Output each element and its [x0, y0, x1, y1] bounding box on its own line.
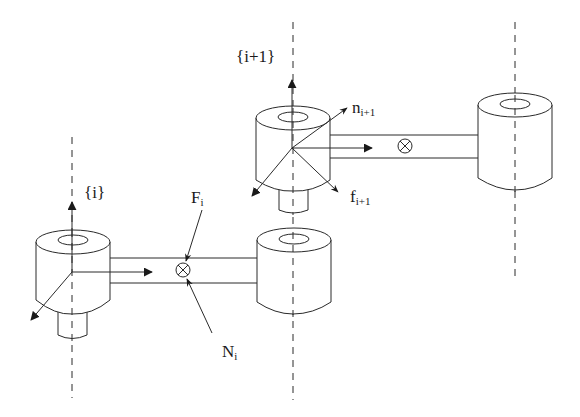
force-F-i-label: Fi: [191, 189, 204, 208]
frame-i-label: {i}: [84, 184, 105, 201]
frame-i1-label: {i+1}: [236, 48, 275, 65]
joint-i-cylinder: [36, 230, 110, 339]
force-F-i-arrow: [186, 210, 202, 261]
robot-link-diagram: [0, 0, 580, 417]
force-f-i1-label: fi+1: [350, 188, 370, 207]
center-of-mass-i-icon: [176, 263, 190, 277]
moment-N-i-arrow: [187, 279, 212, 333]
moment-n-i1-label: ni+1: [352, 99, 375, 118]
joint-i1-lower-cylinder: [257, 228, 331, 314]
center-of-mass-i1-icon: [398, 139, 412, 153]
moment-N-i-label: Ni: [222, 343, 237, 362]
